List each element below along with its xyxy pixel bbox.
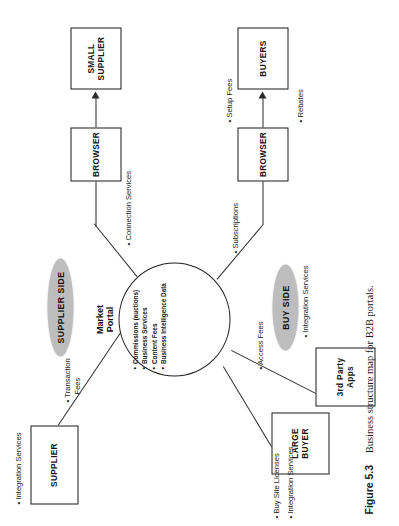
bullet-icon: •	[62, 399, 71, 402]
node-large-buyer-label-line2: BUYER	[300, 428, 310, 458]
list-item: • Business Intelligence Data	[158, 269, 167, 369]
bullet-icon: •	[13, 501, 22, 504]
annotation-connection-services: • Connection Services	[123, 170, 133, 245]
market-portal-item-3: Business Intelligence Data	[158, 283, 167, 364]
node-browser-top: BROWSER	[70, 127, 121, 181]
node-supplier-label: SUPPLIER	[49, 443, 59, 487]
annotation-access-fees-text: Access Fees	[255, 321, 264, 364]
annotation-supplier-integration-services: • Integration Services	[13, 432, 23, 504]
bullet-icon: •	[158, 367, 165, 369]
market-portal-title-line1: Market	[94, 262, 104, 376]
bullet-icon: •	[224, 119, 233, 122]
figure-sheet-rotated: SUPPLIER SIDE BUY SIDE Market Portal • C…	[0, 0, 399, 526]
market-portal-title-line2: Portal	[104, 262, 114, 376]
figure-number: Figure 5.3	[362, 464, 374, 514]
figure-caption: Figure 5.3 Business structure map for B2…	[362, 14, 374, 514]
annotation-rebates-text: Rebates	[295, 89, 304, 117]
annotation-buy-site-licenses-text: Buy Site Licenses	[271, 453, 280, 513]
list-item: • Content Fees	[149, 269, 158, 369]
annotation-transaction-fees-line1: Transaction	[62, 358, 71, 397]
connector-browser-bottom-to-buyers	[262, 94, 263, 128]
bullet-icon: •	[139, 367, 146, 369]
node-buyers: BUYERS	[237, 27, 288, 89]
node-buyers-label: BUYERS	[258, 40, 268, 76]
annotation-transaction-fees-line2: Fees	[72, 332, 81, 394]
annotation-large-buyer-integration-services-text: Integration Services	[285, 446, 294, 513]
bullet-icon: •	[271, 515, 280, 518]
market-portal-revenue-list: • Commissions (auctions) • Business Serv…	[130, 269, 167, 369]
annotation-buy-site-licenses: • Buy Site Licenses	[271, 453, 281, 518]
arrow-head-buyers	[258, 91, 266, 98]
bullet-icon: •	[285, 515, 294, 518]
annotation-access-fees: • Access Fees	[255, 321, 265, 369]
annotation-setup-fees: • Setup Fees	[224, 78, 234, 122]
node-browser-bottom-label: BROWSER	[258, 131, 268, 176]
node-third-party-apps-label-line1: 3rd Party	[335, 357, 345, 396]
annotation-buyer-integration-services: • Integration Services	[300, 265, 310, 337]
market-portal-item-0: Commissions (auctions)	[130, 289, 139, 363]
annotation-rebates: • Rebates	[295, 89, 305, 122]
arrow-head-small-supplier	[91, 91, 99, 98]
list-item: • Business Services	[139, 269, 148, 369]
market-portal-item-2: Content Fees	[149, 323, 158, 363]
bullet-icon: •	[123, 242, 132, 245]
list-item: • Commissions (auctions)	[130, 269, 139, 369]
annotation-connection-services-text: Connection Services	[123, 170, 132, 240]
annotation-setup-fees-text: Setup Fees	[224, 78, 233, 117]
annotation-subscriptions: • Subscriptions	[230, 202, 240, 253]
node-supplier: SUPPLIER	[30, 425, 78, 504]
node-third-party-apps-label-line2: Apps	[345, 366, 355, 388]
node-browser-top-label: BROWSER	[91, 131, 101, 176]
annotation-transaction-fees: • Transaction Fees	[62, 332, 81, 402]
node-small-supplier-label-line1: SMALL	[86, 43, 96, 73]
market-portal-item-1: Business Services	[139, 307, 148, 364]
zone-buy-side-label: BUY SIDE	[280, 285, 290, 329]
connector-browser-top-to-small-supplier	[95, 94, 96, 128]
bullet-icon: •	[300, 334, 309, 337]
annotation-buyer-integration-services-text: Integration Services	[300, 265, 309, 332]
bullet-icon: •	[230, 250, 239, 253]
node-small-supplier-label-line2: SUPPLIER	[96, 36, 106, 80]
annotation-large-buyer-integration-services: • Integration Services	[285, 446, 295, 518]
annotation-subscriptions-text: Subscriptions	[230, 202, 239, 248]
annotation-supplier-integration-services-text: Integration Services	[13, 432, 22, 499]
node-small-supplier: SMALL SUPPLIER	[70, 27, 121, 89]
bullet-icon: •	[255, 366, 264, 369]
figure-page: SUPPLIER SIDE BUY SIDE Market Portal • C…	[0, 0, 399, 526]
bullet-icon: •	[149, 367, 156, 369]
bullet-icon: •	[295, 119, 304, 122]
node-browser-bottom: BROWSER	[237, 127, 288, 181]
market-portal-title: Market Portal	[94, 262, 115, 376]
bullet-icon: •	[130, 367, 137, 369]
figure-caption-text: Business structure map for B2B portals.	[363, 285, 374, 453]
zone-buy-side: BUY SIDE	[272, 264, 298, 350]
